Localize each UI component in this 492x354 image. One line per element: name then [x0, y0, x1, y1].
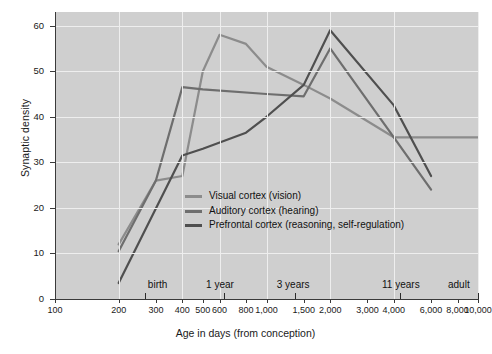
x-tick-label: 100 [47, 305, 62, 315]
legend-swatch-prefrontal-cortex [185, 224, 202, 227]
x-tick-label: 6,000 [420, 305, 443, 315]
x-tick-label: 500 [195, 305, 210, 315]
gridline-vertical [182, 12, 183, 299]
y-tick-mark [50, 162, 55, 163]
gridline-vertical [220, 12, 221, 299]
x-tick-mark [55, 299, 56, 303]
x-tick-mark [394, 299, 395, 303]
legend-item-prefrontal-cortex: Prefrontal cortex (reasoning, self-regul… [185, 219, 404, 232]
legend-label-visual-cortex: Visual cortex (vision) [209, 190, 301, 203]
x-axis-title: Age in days (from conception) [0, 327, 491, 339]
x-tick-label: 400 [175, 305, 190, 315]
milestone-label: 3 years [277, 279, 310, 290]
milestone-tick [295, 293, 296, 299]
legend-item-auditory-cortex: Auditory cortex (hearing) [185, 205, 404, 218]
y-tick-mark [50, 26, 55, 27]
legend-swatch-visual-cortex [185, 195, 202, 198]
x-tick-mark [304, 299, 305, 303]
x-tick-label: 800 [238, 305, 253, 315]
y-tick-mark [50, 253, 55, 254]
x-tick-label: 4,000 [383, 305, 406, 315]
milestone-tick [400, 293, 401, 299]
y-tick-mark [50, 71, 55, 72]
milestone-tick [145, 293, 146, 299]
x-tick-label: 300 [148, 305, 163, 315]
y-tick-mark [50, 208, 55, 209]
x-tick-mark [220, 299, 221, 303]
x-tick-mark [119, 299, 120, 303]
milestone-label: birth [148, 279, 167, 290]
y-tick-label: 0 [18, 293, 44, 304]
milestone-label: 1 year [206, 279, 234, 290]
x-tick-label: 2,000 [319, 305, 342, 315]
gridline-vertical [478, 12, 479, 299]
legend-swatch-auditory-cortex [185, 210, 202, 213]
x-tick-mark [458, 299, 459, 303]
x-tick-label: 600 [212, 305, 227, 315]
legend-label-prefrontal-cortex: Prefrontal cortex (reasoning, self-regul… [209, 219, 404, 232]
gridline-vertical [267, 12, 268, 299]
gridline-vertical [119, 12, 120, 299]
x-tick-label: 3,000 [356, 305, 379, 315]
chart-legend: Visual cortex (vision) Auditory cortex (… [185, 190, 404, 234]
y-tick-label: 60 [18, 20, 44, 31]
plot-area [55, 12, 478, 299]
series-line [119, 30, 431, 283]
x-tick-mark [267, 299, 268, 303]
y-axis-title: Synaptic density [19, 68, 31, 208]
x-tick-mark [330, 299, 331, 303]
x-tick-mark [203, 299, 204, 303]
gridline-vertical [394, 12, 395, 299]
milestone-tick [224, 293, 225, 299]
x-tick-mark [156, 299, 157, 303]
milestone-tick [478, 293, 479, 299]
x-tick-mark [367, 299, 368, 303]
y-tick-label: 10 [18, 247, 44, 258]
legend-item-visual-cortex: Visual cortex (vision) [185, 190, 404, 203]
milestone-label: adult [448, 279, 470, 290]
x-tick-mark [431, 299, 432, 303]
gridline-vertical [330, 12, 331, 299]
x-tick-label: 1,500 [292, 305, 315, 315]
x-tick-label: 1,000 [255, 305, 278, 315]
x-tick-mark [478, 299, 479, 303]
legend-label-auditory-cortex: Auditory cortex (hearing) [209, 205, 319, 218]
x-tick-label: 10,000 [464, 305, 492, 315]
x-tick-mark [182, 299, 183, 303]
milestone-label: 11 years [382, 279, 420, 290]
y-axis-line [55, 12, 56, 299]
x-tick-label: 200 [111, 305, 126, 315]
y-tick-mark [50, 117, 55, 118]
x-tick-mark [246, 299, 247, 303]
